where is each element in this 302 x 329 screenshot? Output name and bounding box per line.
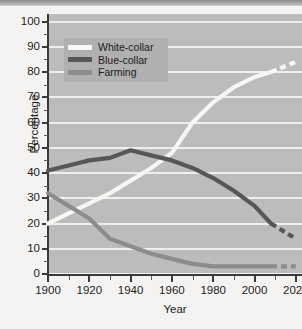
x-tick — [254, 276, 256, 282]
y-axis-title: Percentage — [28, 64, 40, 184]
x-tick — [171, 276, 173, 282]
gridline — [48, 96, 302, 98]
legend-item-farming: Farming — [68, 66, 164, 79]
legend-label-blue-collar: Blue-collar — [98, 55, 148, 66]
x-axis-line — [47, 274, 302, 276]
x-tick-minor — [69, 276, 70, 280]
x-tick-label: 2000 — [232, 285, 278, 297]
y-tick-label: 10 — [2, 243, 40, 255]
gridline — [48, 21, 302, 23]
y-tick-label: 20 — [2, 218, 40, 230]
y-tick — [42, 46, 48, 48]
y-tick-minor — [44, 186, 48, 187]
y-tick — [42, 172, 48, 174]
gridline — [48, 122, 302, 124]
chart-legend: White-collar Blue-collar Farming — [64, 38, 168, 82]
x-tick — [295, 276, 297, 282]
x-tick-label: 1960 — [149, 285, 195, 297]
y-tick — [42, 122, 48, 124]
y-tick — [42, 273, 48, 275]
legend-item-white-collar: White-collar — [68, 41, 164, 54]
x-tick-minor — [193, 276, 194, 280]
x-tick-label: 2020 — [273, 285, 302, 297]
y-tick-minor — [44, 236, 48, 237]
legend-swatch-farming — [68, 70, 92, 75]
x-tick-label: 1940 — [108, 285, 154, 297]
y-tick — [42, 96, 48, 98]
gridline — [48, 223, 302, 225]
gridline — [48, 197, 302, 199]
y-tick-minor — [44, 261, 48, 262]
gridline — [48, 147, 302, 149]
x-tick — [88, 276, 90, 282]
x-axis-title: Year — [48, 303, 302, 315]
legend-swatch-white-collar — [68, 45, 92, 50]
x-tick — [130, 276, 132, 282]
y-tick — [42, 147, 48, 149]
y-tick — [42, 248, 48, 250]
x-tick-minor — [234, 276, 235, 280]
x-tick-minor — [275, 276, 276, 280]
legend-label-white-collar: White-collar — [98, 42, 153, 53]
legend-item-blue-collar: Blue-collar — [68, 54, 164, 67]
y-tick-minor — [44, 135, 48, 136]
y-tick-minor — [44, 85, 48, 86]
x-tick — [47, 276, 49, 282]
y-tick — [42, 21, 48, 23]
gridline — [48, 248, 302, 250]
y-tick-label: 0 — [2, 268, 40, 280]
y-tick-minor — [44, 34, 48, 35]
x-tick-minor — [110, 276, 111, 280]
y-tick-label: 30 — [2, 192, 40, 204]
y-tick-label: 100 — [2, 16, 40, 28]
x-tick-minor — [151, 276, 152, 280]
x-tick-label: 1980 — [190, 285, 236, 297]
x-tick-label: 1920 — [66, 285, 112, 297]
chart-figure: 0102030405060708090100 19001920194019601… — [0, 0, 302, 329]
legend-label-farming: Farming — [98, 67, 137, 78]
x-tick — [212, 276, 214, 282]
gridline — [48, 172, 302, 174]
x-tick-label: 1900 — [25, 285, 71, 297]
y-tick-label: 90 — [2, 41, 40, 53]
y-tick-minor — [44, 110, 48, 111]
y-tick-minor — [44, 160, 48, 161]
y-tick — [42, 223, 48, 225]
legend-swatch-blue-collar — [68, 57, 92, 62]
y-tick — [42, 71, 48, 73]
y-tick-minor — [44, 59, 48, 60]
y-tick — [42, 197, 48, 199]
y-tick-minor — [44, 211, 48, 212]
